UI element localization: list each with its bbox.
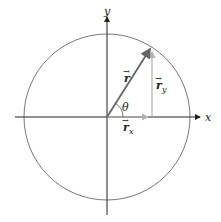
label-r-x-subscript: x [129, 127, 134, 136]
y-axis-label: y [103, 5, 111, 18]
unit-circle-diagram: x y θ → r → r y → r x [0, 0, 221, 222]
label-r-y-subscript: y [161, 85, 167, 94]
angle-label: θ [122, 101, 129, 114]
label-r-x: → r x [122, 116, 134, 136]
label-r-y: → r y [155, 74, 167, 94]
label-r-symbol: r [124, 72, 131, 85]
x-axis-label: x [205, 111, 212, 124]
